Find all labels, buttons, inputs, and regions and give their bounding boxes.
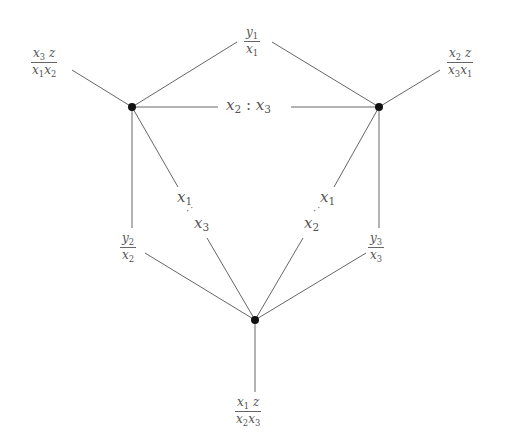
label-left-vertical: y2 x2 (120, 232, 136, 264)
edge-right-outer (379, 70, 440, 107)
node-left (128, 103, 136, 111)
label-bottom-num-extra: z (249, 395, 259, 409)
label-left-diag-b: x3 (194, 216, 209, 233)
label-right-diag-a-sub: 1 (328, 195, 335, 207)
label-right-diag-a: x1 (320, 190, 335, 207)
label-right-vertical-num-sub: 3 (377, 237, 382, 247)
label-top-right-num: x (449, 46, 456, 60)
label-top-right-num-extra: z (461, 46, 471, 60)
label-left-vertical-num-sub: 2 (129, 237, 134, 247)
edge-bottom-left-inner (207, 238, 255, 320)
label-left-vertical-num: y (122, 231, 129, 245)
label-bottom-num: x (237, 395, 244, 409)
label-left-vertical-den-sub: 2 (129, 254, 134, 264)
label-middle-edge: x2 : x3 (226, 98, 271, 115)
label-left-diag-b-sub: 3 (202, 221, 209, 233)
label-right-diag-b-sub: 2 (312, 221, 319, 233)
label-middle-b-sub: 3 (264, 103, 271, 115)
label-left-vertical-den: x (122, 248, 129, 262)
label-top-left-num: x (33, 46, 40, 60)
edge-right-diag (334, 107, 379, 187)
graph-edges (0, 0, 512, 445)
edge-top-right (272, 42, 379, 107)
label-top-right-den2-sub: 1 (467, 69, 472, 79)
label-top-den: x (246, 42, 253, 56)
label-right-diag-b: x2 (304, 216, 319, 233)
node-right (375, 103, 383, 111)
label-top-den-sub: 1 (253, 48, 258, 58)
label-top-left: x3 z x1x2 (30, 47, 58, 79)
edge-left-top (132, 42, 237, 107)
label-right-vertical: y3 x3 (368, 232, 384, 264)
label-top-right-den2: x (460, 63, 467, 77)
label-bottom-den2: x (248, 412, 255, 426)
edge-bottom-right-inner (255, 238, 303, 320)
edge-bottom-right-outer (255, 253, 366, 320)
label-top-right: x2 z x3x1 (446, 47, 474, 79)
label-bottom-den2-sub: 3 (255, 418, 260, 428)
label-bottom-den: x (236, 412, 243, 426)
label-top-left-den2-sub: 2 (51, 69, 56, 79)
label-top-left-den2: x (44, 63, 51, 77)
label-middle-sep: : (241, 96, 256, 114)
label-top: y1 x1 (244, 26, 260, 58)
label-top-left-num-extra: z (45, 46, 55, 60)
node-bottom (251, 316, 259, 324)
edge-bottom-left-outer (145, 253, 255, 320)
edge-left-diag (132, 107, 178, 187)
label-right-vertical-num: y (370, 231, 377, 245)
label-middle-b: x (256, 96, 264, 114)
label-top-num-sub: 1 (253, 31, 258, 41)
label-top-left-den: x (32, 63, 39, 77)
label-top-num: y (246, 25, 253, 39)
label-top-right-den: x (448, 63, 455, 77)
label-right-vertical-den-sub: 3 (377, 254, 382, 264)
label-bottom: x1 z x2x3 (234, 396, 262, 428)
label-right-diag-dots: ·˙ (313, 206, 321, 216)
label-right-vertical-den: x (370, 248, 377, 262)
label-left-diag-dots: ·˙ (186, 206, 194, 216)
edge-left-outer (72, 70, 132, 107)
